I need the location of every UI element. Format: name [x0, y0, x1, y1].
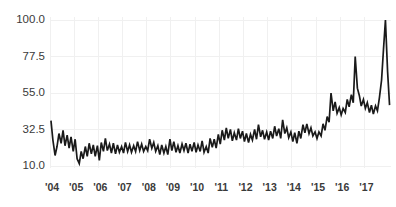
- chart-background: [0, 0, 396, 207]
- x-axis-tick-label: '10: [190, 181, 204, 193]
- x-axis-tick-label: '14: [287, 181, 301, 193]
- y-axis-tick-label: 55.0: [23, 86, 45, 98]
- x-axis-tick-label: '16: [335, 181, 349, 193]
- chart-canvas: 10.032.555.077.5100.0 '04'05'06'07'08'09…: [0, 0, 396, 207]
- y-axis-tick-label: 32.5: [23, 123, 45, 135]
- x-axis-tick-label: '12: [238, 181, 252, 193]
- y-axis-tick-label: 77.5: [23, 50, 45, 62]
- y-axis-tick-label: 10.0: [23, 159, 45, 171]
- x-axis-tick-label: '11: [214, 181, 228, 193]
- y-axis-tick-label: 100.0: [16, 13, 45, 25]
- x-axis-tick-label: '17: [359, 181, 373, 193]
- x-axis-tick-label: '07: [117, 181, 131, 193]
- x-axis-tick-label: '13: [263, 181, 277, 193]
- x-axis-tick-label: '06: [93, 181, 107, 193]
- x-axis-tick-label: '09: [166, 181, 180, 193]
- x-axis-tick-label: '08: [142, 181, 156, 193]
- x-axis-tick-label: '04: [45, 181, 59, 193]
- x-axis-tick-label: '05: [69, 181, 83, 193]
- line-chart: 10.032.555.077.5100.0 '04'05'06'07'08'09…: [0, 0, 396, 207]
- x-axis-tick-label: '15: [311, 181, 325, 193]
